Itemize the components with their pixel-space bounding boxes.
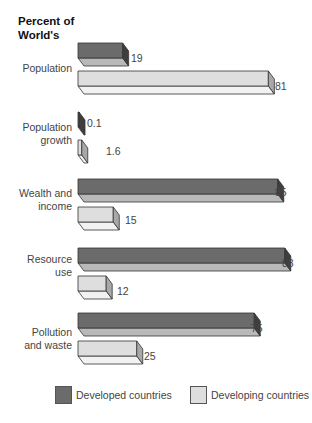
bar-population-developing-bottom <box>78 86 274 94</box>
value-growth-developed: 0.1 <box>87 117 102 129</box>
value-growth-developing: 1.6 <box>106 145 121 157</box>
bar-population-growth-developing <box>78 140 82 155</box>
bar-pollution-waste-developed <box>78 313 254 328</box>
value-population-developed: 19 <box>131 52 143 64</box>
legend-swatch-developed <box>55 386 72 404</box>
bar-population-developed-bottom <box>78 58 129 66</box>
bar-pollution-waste-developed-bottom <box>78 328 260 336</box>
value-population-developing: 81 <box>275 80 287 92</box>
bar-population-developed <box>78 43 123 58</box>
legend-swatch-developing <box>190 386 207 404</box>
value-pollution-developing: 25 <box>144 350 156 362</box>
legend-label-developed: Developed countries <box>76 389 172 401</box>
value-resource-developing: 12 <box>117 285 129 297</box>
legend-label-developing: Developing countries <box>211 389 309 401</box>
bar-resource-use-developing <box>78 276 106 291</box>
bar-wealth-income-developed-bottom <box>78 194 284 202</box>
bar-pollution-waste-developing <box>78 341 137 356</box>
value-wealth-developing: 15 <box>125 214 137 226</box>
bar-resource-use-developed-bottom <box>78 263 291 271</box>
bar-pollution-waste-developing-bottom <box>78 356 143 364</box>
bar-resource-use-developed <box>78 248 285 263</box>
bar-wealth-income-developing-bottom <box>78 222 119 230</box>
value-pollution-developed: 75 <box>251 322 263 334</box>
bar-population-growth-developed-side <box>79 112 85 135</box>
value-resource-developed: 88 <box>282 257 294 269</box>
bar-wealth-income-developed <box>78 179 278 194</box>
bar-population-developing <box>78 71 268 86</box>
bar-wealth-income-developing <box>78 207 113 222</box>
value-wealth-developed: 85 <box>275 186 287 198</box>
bars-canvas <box>0 0 312 423</box>
